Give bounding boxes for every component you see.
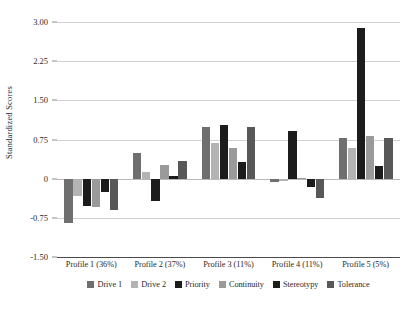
bar-slot — [100, 22, 109, 257]
legend-swatch-icon — [273, 281, 280, 288]
legend-label: Stereotypy — [283, 280, 318, 289]
bar-group — [126, 22, 195, 257]
bar-group-bars — [57, 22, 126, 257]
bar-slot — [338, 22, 347, 257]
legend-swatch-icon — [175, 281, 182, 288]
x-axis-category-label: Profile 5 (5%) — [331, 260, 400, 269]
bar-slot — [73, 22, 82, 257]
legend-swatch-icon — [87, 281, 94, 288]
bar-slot — [357, 22, 366, 257]
legend-label: Priority — [185, 280, 210, 289]
bar — [288, 131, 296, 179]
chart-legend: Drive 1Drive 2PriorityContinuityStereoty… — [57, 280, 400, 289]
bar-slot — [315, 22, 324, 257]
bar — [178, 161, 186, 178]
bar-slot — [375, 22, 384, 257]
bar-slot — [178, 22, 187, 257]
bar-slot — [91, 22, 100, 257]
bar-slot — [247, 22, 256, 257]
bar-slot — [142, 22, 151, 257]
legend-item[interactable]: Drive 1 — [87, 280, 122, 289]
legend-item[interactable]: Drive 2 — [131, 280, 166, 289]
legend-swatch-icon — [327, 281, 334, 288]
x-axis-category-label: Profile 2 (37%) — [126, 260, 195, 269]
bar — [211, 143, 219, 179]
bar-slot — [297, 22, 306, 257]
bar — [160, 165, 168, 179]
x-axis-category-label: Profile 3 (11%) — [194, 260, 263, 269]
bar-slot — [347, 22, 356, 257]
bar-slot — [228, 22, 237, 257]
bar-group — [194, 22, 263, 257]
bar — [270, 179, 278, 182]
bar-group — [331, 22, 400, 257]
bar-slot — [160, 22, 169, 257]
bar-slot — [219, 22, 228, 257]
bar — [101, 179, 109, 192]
bar-slot — [366, 22, 375, 257]
bar-groups — [57, 22, 400, 257]
y-axis-tick-label: 1.50 — [14, 96, 48, 105]
bar-group — [57, 22, 126, 257]
bar — [142, 172, 150, 179]
bar — [348, 148, 356, 178]
y-axis-tick-label: 2.25 — [14, 57, 48, 66]
bar-group — [263, 22, 332, 257]
chart-figure: Standardized Scores 3.002.251.500.750-0.… — [0, 0, 406, 310]
bar — [133, 153, 141, 179]
bar-slot — [279, 22, 288, 257]
bar-group-bars — [194, 22, 263, 257]
bar-slot — [238, 22, 247, 257]
y-axis-tick-label: 3.00 — [14, 18, 48, 27]
gridline — [57, 257, 400, 258]
legend-item[interactable]: Priority — [175, 280, 210, 289]
bar — [307, 179, 315, 187]
bar-group-bars — [331, 22, 400, 257]
legend-label: Continuity — [229, 280, 264, 289]
bar — [229, 148, 237, 178]
bar-slot — [288, 22, 297, 257]
y-axis-tick-label: 0.75 — [14, 135, 48, 144]
bar-slot — [270, 22, 279, 257]
bar-slot — [306, 22, 315, 257]
legend-label: Drive 2 — [141, 280, 166, 289]
bar — [64, 179, 72, 223]
bar-slot — [210, 22, 219, 257]
y-axis-ticks: 3.002.251.500.750-0.75-1.50 — [13, 22, 57, 257]
bar — [366, 136, 374, 179]
bar-slot — [133, 22, 142, 257]
x-axis-category-label: Profile 4 (11%) — [263, 260, 332, 269]
bar — [247, 127, 255, 178]
bar — [357, 28, 365, 178]
legend-swatch-icon — [131, 281, 138, 288]
bar — [169, 176, 177, 179]
bar — [316, 179, 324, 198]
bar — [92, 179, 100, 207]
y-axis-tick-label: 0 — [14, 174, 48, 183]
bar-group-bars — [263, 22, 332, 257]
bar-slot — [64, 22, 73, 257]
bar — [73, 179, 81, 196]
y-axis-tick-label: -1.50 — [14, 253, 48, 262]
bar-slot — [82, 22, 91, 257]
legend-label: Tolerance — [337, 280, 369, 289]
bar — [279, 179, 287, 181]
x-axis-labels: Profile 1 (36%)Profile 2 (37%)Profile 3 … — [57, 260, 400, 269]
bar — [110, 179, 118, 210]
legend-item[interactable]: Stereotypy — [273, 280, 318, 289]
bar-slot — [109, 22, 118, 257]
bar — [151, 179, 159, 201]
legend-item[interactable]: Continuity — [219, 280, 264, 289]
bar-group-bars — [126, 22, 195, 257]
bar — [220, 125, 228, 178]
legend-swatch-icon — [219, 281, 226, 288]
bar-slot — [151, 22, 160, 257]
bar — [384, 138, 392, 179]
bar — [375, 166, 383, 179]
legend-label: Drive 1 — [97, 280, 122, 289]
x-axis-category-label: Profile 1 (36%) — [57, 260, 126, 269]
plot-area — [57, 22, 400, 257]
legend-item[interactable]: Tolerance — [327, 280, 369, 289]
bar — [297, 178, 305, 179]
bar — [83, 179, 91, 206]
